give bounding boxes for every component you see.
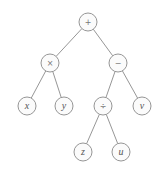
node-label: u — [119, 146, 124, 157]
node-z: z — [74, 143, 92, 161]
edge-mul-y — [53, 72, 61, 98]
node-x: x — [18, 97, 36, 115]
node-sub: − — [109, 54, 127, 72]
node-label: y — [61, 100, 67, 111]
node-label: v — [140, 100, 145, 111]
edge-root-sub — [93, 29, 112, 55]
node-label: x — [24, 100, 30, 111]
edge-sub-div — [106, 71, 115, 97]
node-label: × — [47, 59, 54, 68]
tree-edges — [31, 29, 137, 144]
edge-root-mul — [56, 29, 82, 57]
edge-sub-v — [122, 71, 137, 98]
edge-mul-x — [31, 71, 46, 98]
node-mul: × — [41, 54, 59, 72]
node-label: ÷ — [100, 102, 107, 111]
node-root: + — [79, 13, 97, 31]
node-label: − — [115, 59, 122, 68]
node-u: u — [112, 143, 130, 161]
node-v: v — [133, 97, 151, 115]
edge-div-z — [87, 114, 100, 143]
node-div: ÷ — [94, 97, 112, 115]
expression-tree-diagram: +×−xy÷vzu — [0, 0, 159, 169]
node-label: z — [80, 146, 85, 157]
node-y: y — [55, 97, 73, 115]
node-label: + — [85, 18, 92, 27]
edge-div-u — [106, 114, 117, 143]
